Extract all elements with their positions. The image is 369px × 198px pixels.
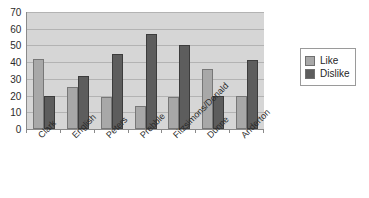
bar-group bbox=[27, 12, 61, 129]
legend-item-dislike[interactable]: Dislike bbox=[305, 68, 349, 79]
y-tick-label: 10 bbox=[10, 107, 21, 118]
bars-layer bbox=[27, 12, 264, 129]
bar-like-1 bbox=[67, 87, 78, 129]
y-tick-label: 70 bbox=[10, 7, 21, 18]
y-tick-label: 20 bbox=[10, 90, 21, 101]
legend-item-like[interactable]: Like bbox=[305, 55, 349, 66]
bar-like-0 bbox=[33, 59, 44, 129]
y-tick-label: 30 bbox=[10, 73, 21, 84]
x-axis: ClarkEnglishPetersPrebbleFitzsimons/Dona… bbox=[26, 133, 276, 193]
legend-label: Like bbox=[320, 55, 338, 66]
legend-swatch-dislike-icon bbox=[305, 69, 315, 79]
y-axis: 706050403020100 bbox=[0, 0, 24, 198]
y-tick-label: 60 bbox=[10, 23, 21, 34]
bar-like-6 bbox=[236, 96, 247, 129]
legend-label: Dislike bbox=[320, 68, 349, 79]
bar-like-2 bbox=[101, 97, 112, 129]
bar-like-4 bbox=[168, 97, 179, 129]
bar-group bbox=[129, 12, 163, 129]
plot-area bbox=[26, 12, 264, 130]
bar-chart: 706050403020100 ClarkEnglishPetersPrebbl… bbox=[0, 0, 369, 198]
bar-group bbox=[95, 12, 129, 129]
y-tick-label: 0 bbox=[16, 124, 21, 135]
legend-swatch-like-icon bbox=[305, 56, 315, 66]
y-tick-label: 40 bbox=[10, 57, 21, 68]
legend: LikeDislike bbox=[300, 48, 356, 86]
y-tick-label: 50 bbox=[10, 40, 21, 51]
